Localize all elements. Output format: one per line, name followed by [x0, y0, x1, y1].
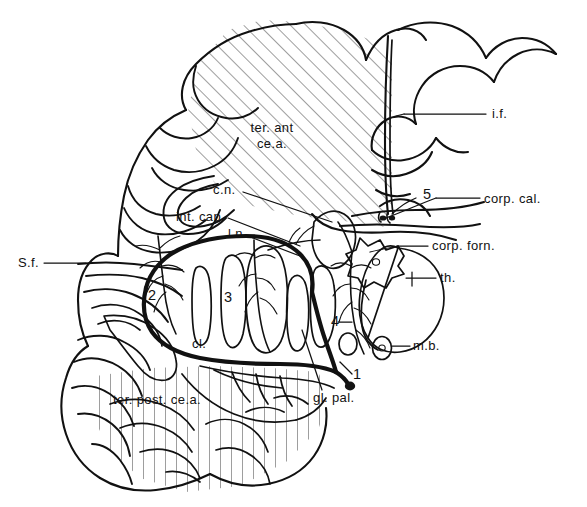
figure-root: ter. ant ce.a. i.f. corp. cal. corp. for… — [0, 0, 587, 507]
label-s-f: S.f. — [18, 255, 39, 270]
label-cl: cl. — [192, 336, 206, 351]
label-i-f: i.f. — [492, 106, 507, 121]
label-th: th. — [440, 270, 456, 285]
label-corp-forn: corp. forn. — [432, 238, 495, 253]
brain-coronal-section-diagram: ter. ant ce.a. i.f. corp. cal. corp. for… — [0, 0, 587, 507]
marker-5: 5 — [423, 186, 431, 202]
label-l-n: l.n. — [228, 226, 247, 241]
label-ter-ant-ce-a-line2: ce.a. — [257, 136, 287, 151]
label-corp-cal: corp. cal. — [484, 191, 541, 206]
label-c-n: c.n. — [213, 182, 236, 197]
label-ter-ant-ce-a-line1: ter. ant — [251, 120, 294, 135]
label-gl-pal: gl. pal. — [313, 390, 355, 405]
marker-2: 2 — [148, 287, 156, 303]
label-ter-post-ce-a: ter. post. ce.a. — [113, 392, 201, 407]
marker-4: 4 — [331, 313, 339, 329]
label-int-cap: int. cap. — [176, 209, 225, 224]
marker-3: 3 — [224, 289, 232, 305]
label-m-b: m.b. — [413, 338, 440, 353]
marker-1: 1 — [353, 366, 361, 382]
